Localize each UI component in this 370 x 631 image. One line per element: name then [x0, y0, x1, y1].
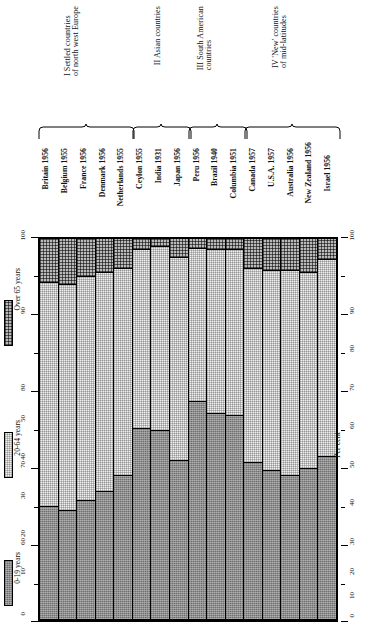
bar-ceylon-1955: [133, 239, 152, 619]
segment-0-19: [244, 463, 262, 619]
y-tick-label-right-30: 30: [349, 538, 356, 550]
legend-label-text: Over 65 years: [14, 268, 22, 311]
y-tick-label-left-90: 90: [20, 307, 27, 319]
y-tick-label-left-30: 30: [20, 492, 27, 504]
segment-0-19: [40, 507, 58, 619]
y-tick-left: [31, 545, 38, 546]
y-tick-right: [341, 314, 348, 315]
y-axis-left: [31, 237, 32, 622]
bar-belgium-1955: [59, 239, 78, 619]
y-tick-right: [341, 621, 348, 622]
tick-text: 90: [20, 307, 27, 314]
country-label-usa: U.S.A. 1957: [268, 148, 276, 236]
segment-over-65: [114, 239, 132, 269]
segment-over-65: [226, 239, 244, 250]
y-tick-right: [341, 353, 345, 354]
y-tick-right: [341, 545, 348, 546]
country-label-text: Britain 1956: [42, 148, 50, 189]
tick-text: 100: [349, 230, 356, 241]
y-tick-left: [31, 468, 38, 469]
y-tick-label-left-100: 100: [20, 230, 27, 246]
segment-20-64: [114, 269, 132, 476]
tick-text: 80: [20, 384, 27, 391]
y-tick-label-right-80: 80: [349, 345, 356, 357]
country-label-text: Columbia 1951: [230, 148, 238, 198]
bar-britain-1956: [40, 239, 59, 619]
segment-over-65: [77, 239, 95, 277]
segment-0-19: [300, 469, 318, 619]
segment-0-19: [59, 511, 77, 619]
y-tick-label-left-0: 0: [20, 612, 27, 622]
legend-swatch-over-65: [4, 300, 13, 346]
y-tick-label-left-50b: 50: [20, 415, 27, 427]
legend-swatch-20-64: [4, 432, 13, 478]
y-tick-label-right-10: 10: [349, 592, 356, 604]
segment-20-64: [281, 271, 299, 476]
chart-figure: I Settled countries of north west Europe…: [0, 0, 370, 631]
country-label-new-zealand: New Zealand 1956: [305, 142, 313, 236]
legend-swatch-0-19: [4, 560, 13, 606]
segment-over-65: [96, 239, 114, 273]
tick-text: 40: [349, 499, 356, 506]
group-brace-1: [38, 124, 135, 140]
country-label-peru: Peru 1956: [193, 148, 201, 236]
segment-over-65: [59, 239, 77, 285]
segment-0-19: [77, 501, 95, 619]
y-tick-right: [341, 584, 345, 585]
country-label-columbia: Columbia 1951: [230, 148, 238, 236]
y-tick-label-left-40: 40: [20, 453, 27, 465]
group-brace-3: [188, 124, 248, 140]
tick-text: 100: [20, 230, 27, 241]
country-label-text: U.S.A. 1957: [268, 148, 276, 187]
y-tick-label-right-0: 0: [349, 614, 356, 624]
y-tick-right: [341, 276, 345, 277]
y-axis-title-per-cent: Per cent: [334, 432, 342, 476]
tick-text: 30: [349, 538, 356, 545]
y-tick-left: [31, 237, 38, 238]
country-label-text: Israel 1956: [324, 155, 332, 192]
country-label-india: India 1931: [155, 148, 163, 236]
segment-20-64: [244, 269, 262, 463]
y-tick-label-right-90: 90: [349, 307, 356, 319]
tick-text: 80: [349, 345, 356, 352]
legend-label-0-19: 0-19 years: [14, 552, 22, 608]
country-label-france: France 1956: [80, 148, 88, 236]
country-label-text: Canada 1957: [249, 148, 257, 192]
y-tick-left: [31, 621, 38, 622]
y-tick-left: [31, 314, 38, 315]
bar-u-s-a-1957: [263, 239, 282, 619]
bar-brazil-1940: [207, 239, 226, 619]
y-tick-right: [341, 430, 345, 431]
tick-text: 10: [349, 592, 356, 599]
group-caption-2-text: II Asian countries: [154, 6, 162, 65]
group-caption-4: IV 'New' countries of mid-latitudes: [272, 6, 289, 136]
group-caption-4-text: IV 'New' countries of mid-latitudes: [272, 6, 289, 68]
bar-peru-1956: [189, 239, 208, 619]
tick-text: 0: [349, 614, 356, 618]
country-label-australia: Australia 1956: [287, 148, 295, 236]
country-label-brazil: Brazil 1940: [211, 148, 219, 236]
country-label-text: Japan 1956: [174, 148, 182, 186]
segment-20-64: [59, 285, 77, 511]
country-label-denmark: Denmark 1956: [99, 148, 107, 236]
country-label-canada: Canada 1957: [249, 148, 257, 236]
country-label-text: Brazil 1940: [211, 148, 219, 186]
y-tick-label-right-60: 60: [349, 422, 356, 434]
group-caption-2: II Asian countries: [154, 6, 162, 136]
group-brace-2: [132, 124, 192, 140]
y-tick-left: [31, 391, 38, 392]
segment-0-19: [207, 414, 225, 619]
country-label-text: Ceylon 1955: [136, 148, 144, 189]
country-label-text: India 1931: [155, 148, 163, 183]
country-label-netherlands: Netherlands 1955: [117, 148, 125, 236]
segment-20-64: [318, 260, 336, 458]
country-label-belgium: Belgium 1955: [61, 148, 69, 236]
bar-columbia-1951: [226, 239, 245, 619]
bar-denmark-1956: [96, 239, 115, 619]
y-tick-left: [34, 276, 38, 277]
y-tick-left: [34, 353, 38, 354]
segment-0-19: [189, 402, 207, 619]
segment-0-19: [96, 492, 114, 619]
bar-australia-1956: [281, 239, 300, 619]
segment-over-65: [281, 239, 299, 271]
